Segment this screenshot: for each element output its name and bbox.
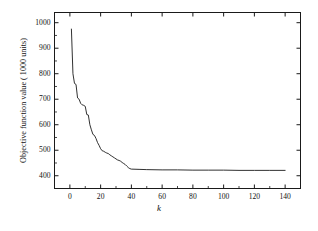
x-tick-label: 140 xyxy=(265,192,305,201)
y-tick-label: 1000 xyxy=(9,18,51,27)
x-axis-title: k xyxy=(0,203,318,213)
y-tick-label: 900 xyxy=(9,43,51,52)
y-tick-label: 800 xyxy=(9,69,51,78)
y-tick-label: 700 xyxy=(9,94,51,103)
chart-figure: Objective function value ( 1000 units) k… xyxy=(0,0,318,231)
y-tick-label: 400 xyxy=(9,171,51,180)
y-tick-label: 500 xyxy=(9,145,51,154)
y-tick-label: 600 xyxy=(9,120,51,129)
